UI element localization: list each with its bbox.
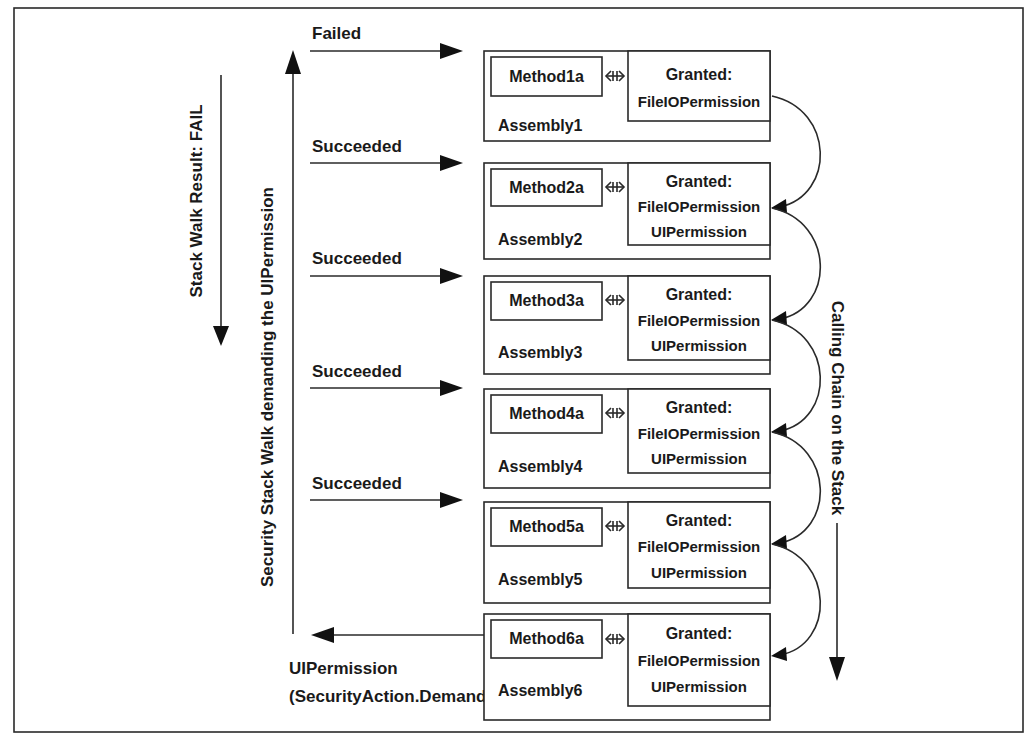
demand-label-line2: (SecurityAction.Demand) (289, 687, 492, 706)
arrow-right-icon (440, 43, 463, 59)
granted-heading: Granted: (666, 399, 733, 416)
granted-heading: Granted: (666, 66, 733, 83)
granted-permission: FileIOPermission (638, 538, 761, 555)
check-result-label: Failed (312, 24, 361, 43)
granted-box (628, 51, 770, 121)
assembly-label: Assembly1 (498, 117, 583, 134)
granted-permission: FileIOPermission (638, 93, 761, 110)
method-label: Method3a (509, 292, 584, 309)
assembly-label: Assembly4 (498, 458, 583, 475)
curve-arrowhead-icon (771, 647, 787, 661)
security-stack-walk-label: Security Stack Walk demanding the UIPerm… (258, 187, 277, 587)
granted-permission: FileIOPermission (638, 198, 761, 215)
check-result-3: Succeeded (310, 362, 463, 396)
granted-permission: FileIOPermission (638, 652, 761, 669)
granted-permission: UIPermission (651, 337, 747, 354)
method-label: Method1a (509, 68, 584, 85)
granted-heading: Granted: (666, 512, 733, 529)
check-result-label: Succeeded (312, 362, 402, 381)
assembly-box-4: Method4a Assembly4 Granted: FileIOPermis… (484, 389, 770, 488)
check-result-4: Succeeded (310, 474, 463, 508)
check-result-1: Succeeded (310, 137, 463, 171)
granted-heading: Granted: (666, 173, 733, 190)
calling-chain-label: Calling Chain on the Stack (828, 301, 847, 516)
granted-permission: FileIOPermission (638, 425, 761, 442)
stack-walk-arrow-up-icon (285, 50, 301, 74)
assembly-box-6: Method6a Assembly6 Granted: FileIOPermis… (484, 614, 770, 720)
method-label: Method2a (509, 179, 584, 196)
assembly-box-3: Method3a Assembly3 Granted: FileIOPermis… (484, 276, 770, 374)
arrow-right-icon (440, 380, 463, 396)
assembly-label: Assembly2 (498, 231, 583, 248)
result-arrow-down-icon (213, 326, 229, 346)
assembly-label: Assembly6 (498, 682, 583, 699)
arrow-right-icon (440, 268, 463, 284)
curve-arrowhead-icon (771, 423, 787, 437)
arrow-right-icon (440, 155, 463, 171)
stack-walk-diagram: Stack Walk Result: FAIL Security Stack W… (0, 0, 1032, 734)
granted-permission: UIPermission (651, 450, 747, 467)
assembly-box-1: Method1a Assembly1 Granted: FileIOPermis… (484, 51, 770, 141)
check-result-0: Failed (310, 24, 463, 59)
granted-permission: UIPermission (651, 678, 747, 695)
assembly-box-5: Method5a Assembly5 Granted: FileIOPermis… (484, 502, 770, 603)
granted-permission: FileIOPermission (638, 312, 761, 329)
assembly-box-2: Method2a Assembly2 Granted: FileIOPermis… (484, 163, 770, 259)
granted-permission: UIPermission (651, 564, 747, 581)
demand-label-line1: UIPermission (289, 659, 398, 678)
curve-arrowhead-icon (771, 311, 787, 325)
method-label: Method6a (509, 630, 584, 647)
check-result-label: Succeeded (312, 474, 402, 493)
calling-chain-arrows (771, 96, 820, 661)
demand-arrow-left-icon (311, 627, 334, 643)
granted-heading: Granted: (666, 286, 733, 303)
assembly-label: Assembly5 (498, 571, 583, 588)
check-result-label: Succeeded (312, 249, 402, 268)
stack-walk-result-label: Stack Walk Result: FAIL (187, 104, 206, 297)
check-result-label: Succeeded (312, 137, 402, 156)
check-result-2: Succeeded (310, 249, 463, 284)
curve-arrowhead-icon (771, 535, 787, 549)
curve-arrowhead-icon (771, 199, 787, 213)
method-label: Method5a (509, 518, 584, 535)
calling-chain-arrow-down-icon (829, 657, 845, 681)
granted-permission: UIPermission (651, 223, 747, 240)
granted-heading: Granted: (666, 625, 733, 642)
assembly-label: Assembly3 (498, 344, 583, 361)
method-label: Method4a (509, 405, 584, 422)
arrow-right-icon (440, 492, 463, 508)
